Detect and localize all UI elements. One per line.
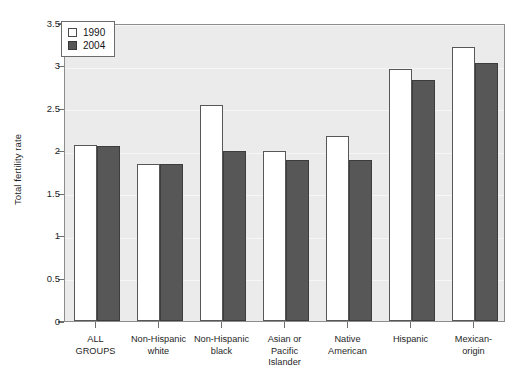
legend-label-1990: 1990	[83, 27, 105, 38]
bar-2004-non-hispanic-white	[160, 164, 183, 322]
legend-item-2004: 2004	[68, 39, 105, 52]
bar-1990-native-american	[326, 136, 349, 321]
gridline	[65, 110, 504, 111]
x-axis-tick	[221, 322, 222, 328]
x-axis-tick-label: Mexican-origin	[431, 334, 517, 357]
bar-2004-hispanic	[412, 80, 435, 321]
bar-1990-non-hispanic-black	[200, 105, 223, 321]
legend-swatch-2004-icon	[68, 41, 77, 50]
fertility-rate-bar-chart: Total fertility rate 00.511.522.533.5 AL…	[0, 0, 523, 383]
bar-1990-non-hispanic-white	[137, 164, 160, 322]
y-axis-tick-label: 2.5	[20, 103, 60, 114]
y-axis-tick-label: 3	[20, 60, 60, 71]
y-axis-tick-label: 2	[20, 145, 60, 156]
x-axis-tick	[347, 322, 348, 328]
x-axis-tick	[284, 322, 285, 328]
bar-2004-native-american	[349, 160, 372, 321]
x-axis-tick	[158, 322, 159, 328]
legend-item-1990: 1990	[68, 26, 105, 39]
bar-1990-hispanic	[389, 69, 412, 321]
bar-2004-all-groups	[97, 146, 120, 321]
y-axis-tick-label: 1.5	[20, 188, 60, 199]
plot-inner	[65, 25, 504, 321]
x-axis-tick	[95, 322, 96, 328]
plot-area	[64, 24, 505, 322]
x-axis-tick-label-line: Mexican-	[431, 334, 517, 346]
y-axis-tick-label: 3.5	[20, 18, 60, 29]
x-axis-tick-label-line: origin	[431, 346, 517, 358]
bar-2004-non-hispanic-black	[223, 151, 246, 321]
bar-2004-asian-or-pacific-islander	[286, 160, 309, 321]
y-axis-tick-label: 0	[20, 316, 60, 327]
x-axis-tick-label-line: Islander	[242, 357, 328, 369]
bar-2004-mexican-origin	[475, 63, 498, 321]
x-axis-tick-label-line: American	[305, 346, 391, 358]
legend-label-2004: 2004	[83, 40, 105, 51]
y-axis-tick-label: 0.5	[20, 273, 60, 284]
y-axis-tick-label: 1	[20, 230, 60, 241]
bar-1990-all-groups	[74, 145, 97, 321]
gridline	[65, 25, 504, 26]
bar-1990-asian-or-pacific-islander	[263, 151, 286, 321]
legend-swatch-1990-icon	[68, 28, 77, 37]
bar-1990-mexican-origin	[452, 47, 475, 321]
chart-legend: 1990 2004	[61, 21, 115, 57]
x-axis-tick	[410, 322, 411, 328]
gridline	[65, 68, 504, 69]
x-axis-tick	[473, 322, 474, 328]
